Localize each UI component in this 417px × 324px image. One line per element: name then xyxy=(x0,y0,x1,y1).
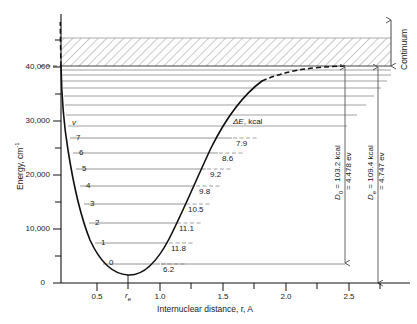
de-annotation: De = 109.4 kcal = 4.747 ev xyxy=(367,145,386,200)
vib-label-2: 2 xyxy=(95,219,99,227)
y-tick-label-40000: 40,000 xyxy=(26,63,50,71)
y-tick-label-10000: 10,000 xyxy=(26,225,50,233)
delta-e-symbol: ΔE xyxy=(233,117,244,126)
plot-canvas xyxy=(0,0,417,324)
potential-curve-asymptote-dashed xyxy=(262,66,345,81)
y-tick-label-20000: 20,000 xyxy=(26,171,50,179)
delta-e-value-7.9: 7.9 xyxy=(236,140,247,148)
delta-e-value-11.8: 11.8 xyxy=(171,245,186,253)
re-subscript: e xyxy=(128,296,131,302)
potential-energy-diagram: Energy, cm-1 0 10,000 20,000 30,000 40,0… xyxy=(0,0,417,324)
delta-e-value-8.6: 8.6 xyxy=(222,155,233,163)
vib-label-5: 5 xyxy=(82,165,86,173)
y-axis-exponent: -1 xyxy=(14,142,20,147)
d0-annotation: D0 = 103.2 kcal = 4.478 ev xyxy=(334,145,353,200)
delta-e-unit: , kcal xyxy=(244,117,263,126)
y-tick-label-0: 0 xyxy=(41,279,45,287)
d0-ev-text: = 4.478 ev xyxy=(345,145,353,190)
re-label: re xyxy=(125,292,131,302)
vib-label-1: 1 xyxy=(101,239,105,247)
delta-e-value-6.2: 6.2 xyxy=(163,266,174,274)
delta-e-value-10.5: 10.5 xyxy=(188,206,204,214)
vib-label-0: 0 xyxy=(109,259,113,267)
continuum-band xyxy=(61,38,391,66)
vib-label-3: 3 xyxy=(90,200,94,208)
delta-e-header: ΔE, kcal xyxy=(233,118,262,126)
vib-label-7: 7 xyxy=(76,134,80,142)
delta-e-value-11.1: 11.1 xyxy=(179,225,194,233)
y-axis-ticks xyxy=(53,40,61,283)
de-kcal-text: = 109.4 kcal xyxy=(366,145,375,188)
x-tick-label-0.5: 0.5 xyxy=(91,293,102,301)
y-axis-title-text: Energy, cm xyxy=(15,148,25,190)
x-axis-ticks xyxy=(97,283,380,291)
v-axis-label: v xyxy=(72,119,76,127)
de-subscript: e xyxy=(371,191,377,194)
x-tick-label-1.5: 1.5 xyxy=(217,293,228,301)
x-tick-label-1.0: 1.0 xyxy=(154,293,165,301)
vib-label-6: 6 xyxy=(79,149,83,157)
vib-label-4: 4 xyxy=(86,182,90,190)
x-tick-label-2.0: 2.0 xyxy=(280,293,291,301)
d0-symbol: D xyxy=(333,194,342,200)
potential-energy-curve xyxy=(61,66,262,275)
d0-kcal-text: = 103.2 kcal xyxy=(333,145,342,188)
vibrational-levels-upper xyxy=(62,70,391,126)
de-symbol: D xyxy=(366,194,375,200)
delta-e-value-9.8: 9.8 xyxy=(199,188,210,196)
continuum-label: Continuum xyxy=(400,29,409,70)
de-ev-text: = 4.747 ev xyxy=(378,145,386,190)
x-tick-label-2.5: 2.5 xyxy=(343,293,354,301)
y-axis-title: Energy, cm-1 xyxy=(14,142,24,190)
delta-e-value-9.2: 9.2 xyxy=(210,171,221,179)
x-axis-title: Internuclear distance, r, A xyxy=(157,305,253,314)
y-tick-label-30000: 30,000 xyxy=(26,117,50,125)
d0-subscript: 0 xyxy=(338,191,344,194)
